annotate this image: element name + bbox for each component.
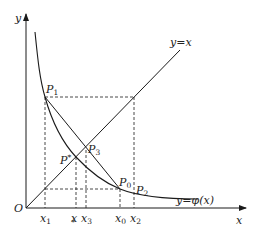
point-label-p0: P0: [118, 176, 131, 190]
tick-label-x0: x0: [115, 212, 126, 226]
fixed-point-diagram: y x O y=x y=φ(x) P1 P3 P* P0 P2 x1 x* x3…: [0, 0, 260, 237]
point-label-pstar: P*: [59, 153, 71, 167]
point-label-p3: P3: [87, 143, 100, 157]
point-label-p2: P2: [135, 184, 148, 198]
diagram-canvas: y x O y=x y=φ(x) P1 P3 P* P0 P2 x1 x* x3…: [0, 0, 260, 237]
identity-line-label: y=x: [169, 36, 192, 49]
phi-curve-label: y=φ(x): [175, 194, 214, 207]
identity-line: [26, 50, 180, 208]
tick-label-x1: x1: [40, 212, 51, 226]
origin-label: O: [14, 202, 23, 215]
tick-label-xstar: x*: [71, 212, 78, 227]
tick-label-x3: x3: [81, 212, 92, 226]
tick-label-x2: x2: [130, 212, 141, 226]
point-label-p1: P1: [45, 83, 58, 97]
y-axis-label: y: [14, 12, 22, 25]
x-axis-label: x: [236, 214, 243, 227]
secant-line: [45, 97, 120, 189]
